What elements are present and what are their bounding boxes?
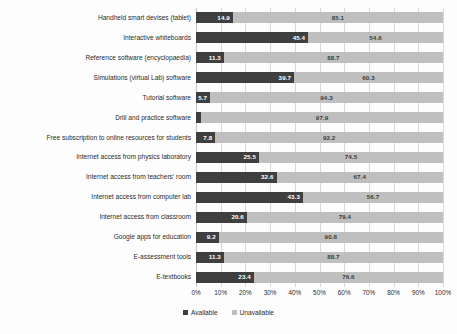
bar-value-label: 43.3 xyxy=(287,194,299,200)
bar-value-label: 54.6 xyxy=(369,35,381,41)
legend-item[interactable]: Unavailable xyxy=(232,309,274,316)
category-label: Internet access from classroom xyxy=(99,214,191,221)
bar-value-label: 25.5 xyxy=(244,154,256,160)
bar-segment-unavailable[interactable]: 92.2 xyxy=(215,132,443,143)
bar-segment-available[interactable]: 25.5 xyxy=(196,152,259,163)
bar-segment-unavailable[interactable]: 90.8 xyxy=(219,232,443,243)
bar-value-label: 9.2 xyxy=(207,234,216,240)
gridline xyxy=(443,8,444,287)
bar-track: 32.667.4 xyxy=(196,172,443,183)
stacked-bar-chart: Handheld smart devises (tablet)14.985.1I… xyxy=(0,0,457,334)
plot-area: Handheld smart devises (tablet)14.985.1I… xyxy=(196,8,443,287)
bar-value-label: 45.4 xyxy=(293,35,305,41)
legend-item[interactable]: Available xyxy=(183,309,218,316)
bar-row[interactable]: Reference software (encyclopaedia)11.388… xyxy=(196,48,443,68)
category-label: Drill and practice software xyxy=(115,114,191,121)
category-label: Internet access from teachers' room xyxy=(86,174,191,181)
bar-segment-available[interactable]: 7.8 xyxy=(196,132,215,143)
category-label: E-assessment tools xyxy=(133,254,191,261)
bar-track: 43.356.7 xyxy=(196,192,443,203)
bar-track: 14.985.1 xyxy=(196,12,443,23)
bar-segment-unavailable[interactable]: 88.7 xyxy=(224,252,443,263)
x-axis-tick-label: 80% xyxy=(387,289,400,296)
bar-value-label: 5.7 xyxy=(198,95,207,101)
category-label: Handheld smart devises (tablet) xyxy=(98,14,191,21)
bar-segment-unavailable[interactable]: 85.1 xyxy=(233,12,443,23)
bar-segment-available[interactable]: 5.7 xyxy=(196,92,210,103)
bar-segment-unavailable[interactable]: 88.7 xyxy=(224,52,443,63)
bar-track: 45.454.6 xyxy=(196,32,443,43)
bar-track: 20.679.4 xyxy=(196,212,443,223)
bar-segment-available[interactable]: 14.9 xyxy=(196,12,233,23)
bar-value-label: 90.8 xyxy=(325,234,337,240)
bar-segment-unavailable[interactable]: 56.7 xyxy=(303,192,443,203)
bar-row[interactable]: E-textbooks23.476.6 xyxy=(196,267,443,287)
bar-segment-available[interactable]: 9.2 xyxy=(196,232,219,243)
bar-value-label: 97.9 xyxy=(316,114,328,120)
bar-row[interactable]: Interactive whiteboards45.454.6 xyxy=(196,28,443,48)
bar-segment-unavailable[interactable]: 97.9 xyxy=(201,112,443,123)
bar-row[interactable]: E-assessment tools11.388.7 xyxy=(196,247,443,267)
category-label: Internet access from physics laboratory xyxy=(76,154,191,161)
bar-value-label: 60.3 xyxy=(362,75,374,81)
bar-row[interactable]: Internet access from physics laboratory2… xyxy=(196,148,443,168)
bar-segment-unavailable[interactable]: 60.3 xyxy=(294,72,443,83)
bar-track: 5.794.3 xyxy=(196,92,443,103)
bar-value-label: 94.3 xyxy=(320,95,332,101)
bar-row[interactable]: Tutorial software5.794.3 xyxy=(196,88,443,108)
bar-value-label: 92.2 xyxy=(323,134,335,140)
bar-segment-available[interactable]: 43.3 xyxy=(196,192,303,203)
bar-track: 11.388.7 xyxy=(196,252,443,263)
bar-value-label: 39.7 xyxy=(279,75,291,81)
bar-track: 23.476.6 xyxy=(196,272,443,283)
bar-segment-available[interactable]: 11.3 xyxy=(196,52,224,63)
bar-segment-unavailable[interactable]: 79.4 xyxy=(247,212,443,223)
bar-value-label: 23.4 xyxy=(238,274,250,280)
bar-track: 39.760.3 xyxy=(196,72,443,83)
category-label: Reference software (encyclopaedia) xyxy=(85,54,191,61)
bar-segment-unavailable[interactable]: 94.3 xyxy=(210,92,443,103)
bar-value-label: 88.7 xyxy=(327,254,339,260)
x-axis-tick-label: 100% xyxy=(435,289,451,296)
x-axis-tick-label: 30% xyxy=(264,289,277,296)
bar-segment-available[interactable]: 39.7 xyxy=(196,72,294,83)
bar-row[interactable]: Internet access from computer lab43.356.… xyxy=(196,187,443,207)
chart-legend: AvailableUnavailable xyxy=(0,309,457,316)
bar-row[interactable]: Internet access from teachers' room32.66… xyxy=(196,167,443,187)
bar-row[interactable]: Handheld smart devises (tablet)14.985.1 xyxy=(196,8,443,28)
bar-segment-available[interactable]: 45.4 xyxy=(196,32,308,43)
bar-segment-unavailable[interactable]: 76.6 xyxy=(254,272,443,283)
bar-row[interactable]: Internet access from classroom20.679.4 xyxy=(196,207,443,227)
category-label: Internet access from computer lab xyxy=(91,194,191,201)
category-label: Simulations (virtual Lab) software xyxy=(94,74,191,81)
x-axis-tick-label: 70% xyxy=(362,289,375,296)
bar-value-label: 67.4 xyxy=(354,174,366,180)
category-label: Google apps for education xyxy=(114,234,191,241)
bar-row[interactable]: Free subscription to online resources fo… xyxy=(196,128,443,148)
bar-row[interactable]: Google apps for education9.290.8 xyxy=(196,227,443,247)
x-axis-tick-label: 10% xyxy=(214,289,227,296)
bar-value-label: 11.3 xyxy=(209,55,221,61)
bar-segment-unavailable[interactable]: 74.5 xyxy=(259,152,443,163)
bar-segment-available[interactable]: 23.4 xyxy=(196,272,254,283)
bar-segment-unavailable[interactable]: 67.4 xyxy=(277,172,443,183)
bar-track: 11.388.7 xyxy=(196,52,443,63)
x-axis-tick-label: 90% xyxy=(412,289,425,296)
x-axis-tick-label: 20% xyxy=(239,289,252,296)
bar-segment-available[interactable]: 20.6 xyxy=(196,212,247,223)
bar-row[interactable]: Drill and practice software2.197.9 xyxy=(196,108,443,128)
bar-track: 2.197.9 xyxy=(196,112,443,123)
bar-value-label: 76.6 xyxy=(342,274,354,280)
bar-segment-unavailable[interactable]: 54.6 xyxy=(308,32,443,43)
bar-segment-available[interactable]: 11.3 xyxy=(196,252,224,263)
legend-label: Available xyxy=(191,309,218,316)
x-axis-tick-label: 50% xyxy=(313,289,326,296)
bar-value-label: 20.6 xyxy=(231,214,243,220)
category-label: E-textbooks xyxy=(156,274,191,281)
bar-row[interactable]: Simulations (virtual Lab) software39.760… xyxy=(196,68,443,88)
bar-value-label: 88.7 xyxy=(327,55,339,61)
legend-swatch-icon xyxy=(183,310,188,315)
bar-rows: Handheld smart devises (tablet)14.985.1I… xyxy=(196,8,443,287)
bar-segment-available[interactable]: 32.6 xyxy=(196,172,277,183)
bar-track: 25.574.5 xyxy=(196,152,443,163)
